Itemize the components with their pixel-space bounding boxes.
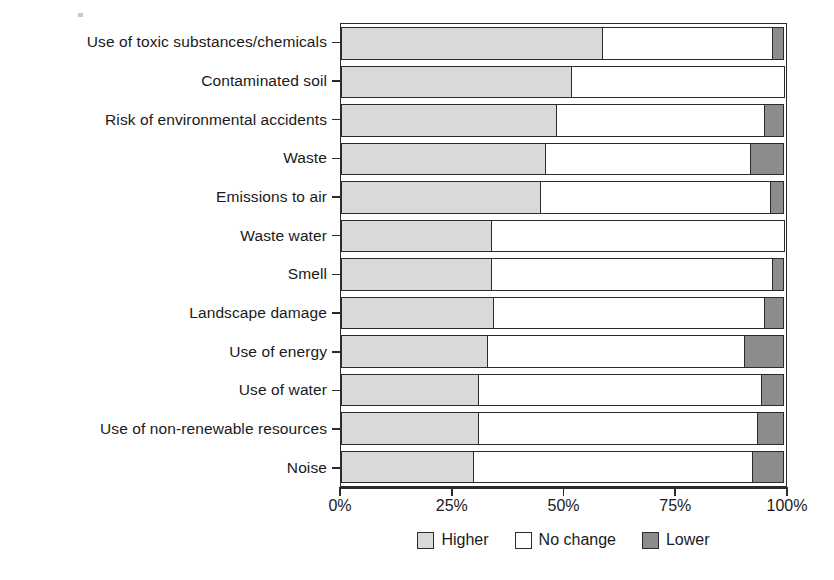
table-row bbox=[341, 178, 786, 217]
y-axis-label-row: Use of toxic substances/chemicals bbox=[0, 23, 340, 62]
stacked-bar-chart: Use of toxic substances/chemicalsContami… bbox=[0, 0, 834, 580]
table-row bbox=[341, 371, 786, 410]
y-axis-labels: Use of toxic substances/chemicalsContami… bbox=[0, 23, 340, 487]
bar-segment-higher bbox=[341, 143, 546, 176]
y-axis-label-row: Use of water bbox=[0, 371, 340, 410]
y-axis-tick bbox=[332, 351, 340, 353]
x-axis-tick bbox=[339, 487, 341, 496]
bar-segment-no-change bbox=[473, 451, 753, 484]
x-axis-tick bbox=[451, 487, 453, 496]
bar-segment-no-change bbox=[491, 258, 774, 291]
x-axis-tick-label: 100% bbox=[767, 497, 808, 515]
bar-segment-lower bbox=[772, 27, 783, 60]
bar-segment-higher bbox=[341, 297, 495, 330]
bar-segment-no-change bbox=[478, 374, 763, 407]
category-label: Use of energy bbox=[229, 343, 329, 361]
stacked-bar bbox=[341, 220, 786, 253]
bar-segment-lower bbox=[764, 297, 784, 330]
y-axis-tick bbox=[332, 274, 340, 276]
table-row bbox=[341, 255, 786, 294]
category-label: Use of non-renewable resources bbox=[100, 420, 329, 438]
y-axis-tick bbox=[332, 158, 340, 160]
y-axis-label-row: Risk of environmental accidents bbox=[0, 100, 340, 139]
y-axis-tick bbox=[332, 312, 340, 314]
stacked-bar bbox=[341, 412, 786, 445]
y-axis-tick bbox=[332, 235, 340, 237]
bar-segment-higher bbox=[341, 258, 492, 291]
y-axis-label-row: Contaminated soil bbox=[0, 62, 340, 101]
category-label: Smell bbox=[288, 265, 329, 283]
bar-segment-higher bbox=[341, 27, 604, 60]
bar-segment-lower bbox=[752, 451, 783, 484]
y-axis-label-row: Use of energy bbox=[0, 332, 340, 371]
table-row bbox=[341, 448, 786, 487]
x-axis-tick bbox=[786, 487, 788, 496]
table-row bbox=[341, 63, 786, 102]
bar-segment-no-change bbox=[545, 143, 751, 176]
stacked-bar bbox=[341, 335, 786, 368]
x-axis-tick-label: 75% bbox=[659, 497, 691, 515]
bar-segment-no-change bbox=[602, 27, 773, 60]
category-label: Emissions to air bbox=[216, 188, 329, 206]
legend-item[interactable]: No change bbox=[515, 531, 616, 549]
y-axis-label-row: Emissions to air bbox=[0, 178, 340, 217]
y-axis-tick bbox=[332, 390, 340, 392]
y-axis-label-row: Smell bbox=[0, 255, 340, 294]
y-axis-tick bbox=[332, 196, 340, 198]
category-label: Use of water bbox=[239, 381, 329, 399]
category-label: Waste bbox=[283, 149, 329, 167]
x-axis-tick-label: 0% bbox=[328, 497, 351, 515]
bar-segment-no-change bbox=[491, 220, 785, 253]
x-axis-tick-label: 50% bbox=[547, 497, 579, 515]
y-axis-tick bbox=[332, 80, 340, 82]
stacked-bar bbox=[341, 27, 786, 60]
bar-segment-higher bbox=[341, 220, 492, 253]
legend-swatch-no-change bbox=[515, 532, 532, 549]
x-axis-tick bbox=[563, 487, 565, 496]
legend-item[interactable]: Lower bbox=[642, 531, 710, 549]
legend-label: Lower bbox=[666, 531, 710, 549]
table-row bbox=[341, 101, 786, 140]
bar-segment-lower bbox=[772, 258, 783, 291]
bar-segment-lower bbox=[761, 374, 783, 407]
table-row bbox=[341, 217, 786, 256]
bar-segment-no-change bbox=[556, 104, 766, 137]
bar-segment-no-change bbox=[493, 297, 764, 330]
bar-segment-higher bbox=[341, 374, 479, 407]
legend-swatch-lower bbox=[642, 532, 659, 549]
bar-segment-lower bbox=[757, 412, 784, 445]
bar-segment-higher bbox=[341, 104, 557, 137]
bar-segment-lower bbox=[770, 181, 783, 214]
stacked-bar bbox=[341, 181, 786, 214]
x-axis-tick-label: 25% bbox=[436, 497, 468, 515]
bar-segment-higher bbox=[341, 181, 541, 214]
bar-segment-no-change bbox=[487, 335, 745, 368]
stacked-bar bbox=[341, 104, 786, 137]
y-axis-tick bbox=[332, 467, 340, 469]
stacked-bar bbox=[341, 297, 786, 330]
bar-segment-no-change bbox=[540, 181, 771, 214]
legend-label: No change bbox=[539, 531, 616, 549]
bar-segment-higher bbox=[341, 451, 475, 484]
table-row bbox=[341, 294, 786, 333]
bar-segment-lower bbox=[764, 104, 783, 137]
y-axis-label-row: Use of non-renewable resources bbox=[0, 410, 340, 449]
y-axis-tick bbox=[332, 119, 340, 121]
legend-item[interactable]: Higher bbox=[417, 531, 488, 549]
bar-segment-higher bbox=[341, 412, 479, 445]
stacked-bar bbox=[341, 451, 786, 484]
stacked-bar bbox=[341, 258, 786, 291]
table-row bbox=[341, 140, 786, 179]
category-label: Noise bbox=[287, 459, 329, 477]
legend: HigherNo changeLower bbox=[340, 527, 787, 553]
y-axis-label-row: Landscape damage bbox=[0, 294, 340, 333]
bar-segment-higher bbox=[341, 66, 572, 99]
scan-artifact-speck bbox=[78, 13, 83, 17]
y-axis-tick bbox=[332, 42, 340, 44]
category-label: Risk of environmental accidents bbox=[105, 111, 329, 129]
bar-segment-lower bbox=[744, 335, 784, 368]
x-axis-tick bbox=[674, 487, 676, 496]
plot-area bbox=[340, 23, 787, 487]
y-axis-tick bbox=[332, 428, 340, 430]
legend-swatch-higher bbox=[417, 532, 434, 549]
